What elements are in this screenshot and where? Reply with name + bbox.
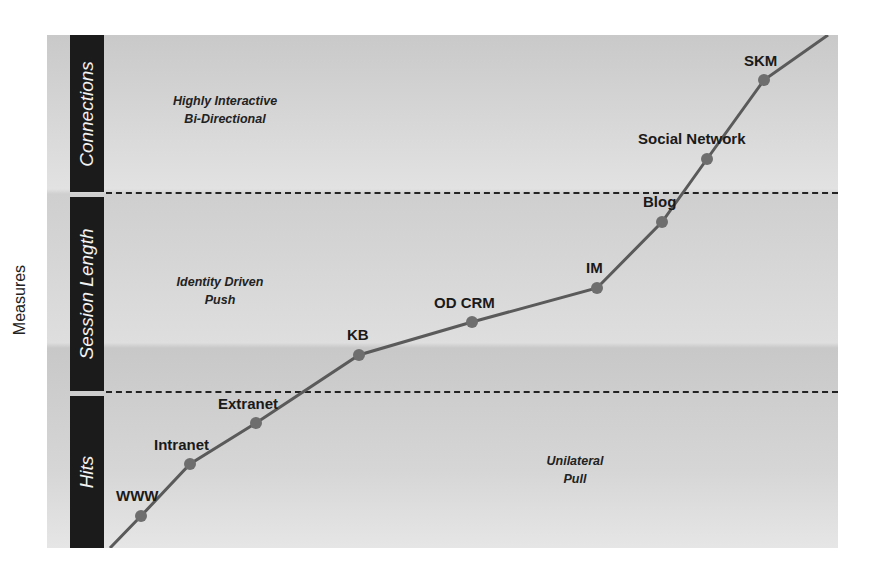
point-label-kb: KB [347, 326, 369, 343]
point-label-extranet: Extranet [218, 395, 278, 412]
data-point-marker [135, 510, 147, 522]
data-point-marker [758, 74, 770, 86]
trend-line [110, 35, 828, 548]
data-point-marker [184, 458, 196, 470]
data-point-marker [701, 153, 713, 165]
data-point-marker [656, 216, 668, 228]
point-label-blog: Blog [643, 193, 676, 210]
point-label-od-crm: OD CRM [434, 294, 495, 311]
data-point-marker [591, 282, 603, 294]
data-point-marker [466, 316, 478, 328]
point-label-intranet: Intranet [154, 436, 209, 453]
data-point-marker [250, 417, 262, 429]
point-label-skm: SKM [744, 52, 777, 69]
point-label-www: WWW [116, 487, 158, 504]
data-point-marker [353, 349, 365, 361]
point-label-im: IM [586, 259, 603, 276]
point-label-social-network: Social Network [638, 130, 746, 147]
